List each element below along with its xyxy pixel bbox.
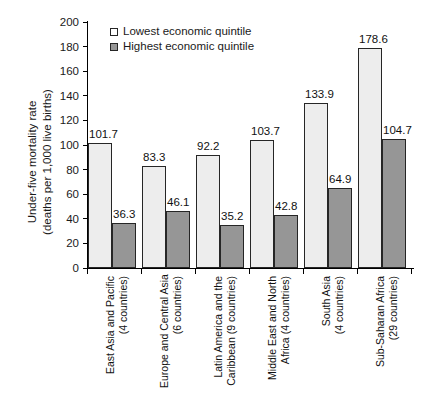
bar-lowest-2[interactable] xyxy=(196,155,220,268)
y-tick-label: 60 xyxy=(66,186,79,202)
x-axis-label-line-1: South Asia xyxy=(320,276,333,388)
bar-highest-2[interactable] xyxy=(220,225,244,268)
x-axis-label-line-1: Europe and Central Asia xyxy=(158,276,171,388)
bar-value-label: 83.3 xyxy=(143,151,165,164)
bar-value-label: 92.2 xyxy=(197,140,219,153)
y-axis-title-line-2: (deaths per 1,000 live births) xyxy=(40,47,55,277)
bar-value-label: 36.3 xyxy=(113,208,135,221)
y-tick-mark xyxy=(83,22,88,23)
legend-swatch-lowest-icon xyxy=(110,28,118,36)
x-axis-label-1: Europe and Central Asia(6 countries) xyxy=(158,276,206,388)
bar-value-label: 46.1 xyxy=(167,196,189,209)
y-tick-mark xyxy=(83,120,88,121)
legend-label-highest: Highest economic quintile xyxy=(123,39,254,54)
y-tick-label: 200 xyxy=(60,14,79,30)
bar-lowest-4[interactable] xyxy=(304,103,328,268)
bar-value-label: 103.7 xyxy=(251,125,280,138)
bar-value-label: 133.9 xyxy=(305,88,334,101)
bar-lowest-3[interactable] xyxy=(250,140,274,268)
x-axis-label-line-2: (29 countries) xyxy=(387,276,400,388)
x-axis-label-2: Latin America and theCaribbean (9 countr… xyxy=(212,276,260,388)
y-tick-label: 160 xyxy=(60,63,79,79)
bar-highest-1[interactable] xyxy=(166,211,190,268)
x-tick-mark xyxy=(249,269,250,274)
bar-value-label: 178.6 xyxy=(359,33,388,46)
x-axis-label-line-1: Latin America and the xyxy=(212,276,225,388)
bar-value-label: 42.8 xyxy=(275,200,297,213)
x-axis-label-line-2: Caribbean (9 countries) xyxy=(225,276,238,388)
x-tick-mark xyxy=(195,269,196,274)
x-axis-line xyxy=(87,268,414,269)
x-axis-label-4: South Asia(4 countries) xyxy=(320,276,368,388)
y-tick-label: 0 xyxy=(73,260,79,276)
x-axis-label-line-2: (4 countries) xyxy=(333,276,346,388)
x-axis-label-0: East Asia and Pacific(4 countries) xyxy=(104,276,152,388)
bar-value-label: 35.2 xyxy=(221,210,243,223)
x-tick-mark xyxy=(303,269,304,274)
legend-swatch-highest-icon xyxy=(110,43,118,51)
x-axis-label-line-2: (6 countries) xyxy=(171,276,184,388)
bar-highest-4[interactable] xyxy=(328,188,352,268)
legend-item-lowest[interactable]: Lowest economic quintile xyxy=(110,24,254,39)
bar-highest-3[interactable] xyxy=(274,215,298,268)
y-tick-label: 80 xyxy=(66,162,79,178)
y-tick-label: 20 xyxy=(66,235,79,251)
x-axis-label-line-1: Middle East and North xyxy=(266,276,279,388)
y-axis-title-line-1: Under-five mortality rate xyxy=(25,47,40,277)
legend: Lowest economic quintile Highest economi… xyxy=(110,24,254,54)
bar-value-label: 104.7 xyxy=(383,124,412,137)
x-axis-label-line-1: East Asia and Pacific xyxy=(104,276,117,388)
legend-item-highest[interactable]: Highest economic quintile xyxy=(110,39,254,54)
bar-lowest-0[interactable] xyxy=(88,143,112,268)
bar-value-label: 64.9 xyxy=(329,173,351,186)
y-tick-label: 140 xyxy=(60,88,79,104)
y-tick-mark xyxy=(83,71,88,72)
y-axis-title: Under-five mortality rate (deaths per 1,… xyxy=(25,47,59,277)
bar-lowest-1[interactable] xyxy=(142,166,166,268)
x-tick-mark xyxy=(87,269,88,274)
legend-label-lowest: Lowest economic quintile xyxy=(123,24,252,39)
y-tick-mark xyxy=(83,46,88,47)
chart-container: Under-five mortality rate (deaths per 1,… xyxy=(0,0,432,399)
x-axis-label-3: Middle East and NorthAfrica (4 countries… xyxy=(266,276,314,388)
y-tick-label: 120 xyxy=(60,112,79,128)
x-axis-label-line-2: (4 countries) xyxy=(117,276,130,388)
y-tick-label: 100 xyxy=(60,137,79,153)
bar-highest-0[interactable] xyxy=(112,223,136,268)
x-axis-label-5: Sub-Saharan Africa(29 countries) xyxy=(374,276,422,388)
y-tick-label: 180 xyxy=(60,39,79,55)
x-axis-label-line-1: Sub-Saharan Africa xyxy=(374,276,387,388)
x-axis-label-line-2: Africa (4 countries) xyxy=(279,276,292,388)
x-tick-mark xyxy=(411,269,412,274)
x-tick-mark xyxy=(357,269,358,274)
y-tick-label: 40 xyxy=(66,211,79,227)
bar-lowest-5[interactable] xyxy=(358,48,382,268)
bar-highest-5[interactable] xyxy=(382,139,406,268)
bar-value-label: 101.7 xyxy=(89,128,118,141)
y-tick-mark xyxy=(83,95,88,96)
x-tick-mark xyxy=(141,269,142,274)
